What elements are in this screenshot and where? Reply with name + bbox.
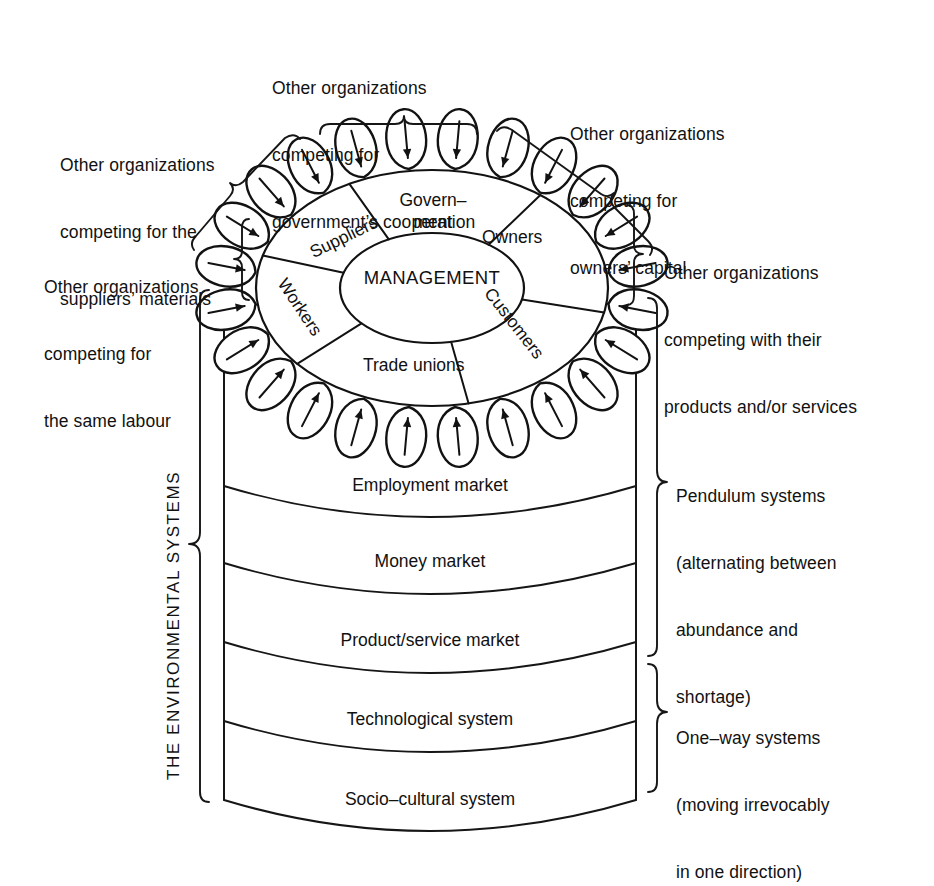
callout-line: competing for [570, 190, 725, 212]
callout-line: Other organizations [272, 77, 475, 99]
layer-label-money-market: Money market [224, 550, 636, 572]
callout-same-labour: Other organizations competing for the sa… [44, 231, 199, 477]
wheel-label-trade-unions: Trade unions [363, 354, 465, 376]
layer-label-employment-market: Employment market [224, 474, 636, 496]
callout-products-services: Other organizations competing with their… [664, 217, 857, 463]
callout-line: abundance and [676, 619, 837, 641]
callout-line: the same labour [44, 410, 199, 432]
layer-label-product-service-market: Product/service market [224, 629, 636, 651]
callout-line: (moving irrevocably [676, 794, 830, 816]
management-label: MANAGEMENT [364, 266, 501, 290]
wheel-label-owners: Owners [482, 226, 542, 248]
callout-line: (alternating between [676, 552, 837, 574]
layer-label-socio-cultural-system: Socio–cultural system [224, 788, 636, 810]
callout-line: Other organizations [44, 276, 199, 298]
callout-line: competing with their [664, 329, 857, 351]
callout-government-cooperation: Other organizations competing for govern… [272, 32, 475, 278]
wheel-label-government: Govern– ment [383, 189, 483, 234]
callout-line: products and/or services [664, 396, 857, 418]
callout-line: Pendulum systems [676, 485, 837, 507]
callout-line: Other organizations [570, 123, 725, 145]
callout-line: competing for [272, 144, 475, 166]
environmental-systems-axis-label: THE ENVIRONMENTAL SYSTEMS [163, 471, 185, 780]
callout-line: Other organizations [664, 262, 857, 284]
callout-line: Other organizations [60, 154, 215, 176]
callout-line: One–way systems [676, 727, 830, 749]
wheel-label-line: ment [383, 211, 483, 233]
brace-one-way [648, 664, 667, 792]
callout-one-way-systems: One–way systems (moving irrevocably in o… [676, 682, 830, 886]
layer-label-technological-system: Technological system [224, 708, 636, 730]
wheel-label-line: Govern– [383, 189, 483, 211]
callout-line: competing for [44, 343, 199, 365]
callout-line: in one direction) [676, 861, 830, 883]
